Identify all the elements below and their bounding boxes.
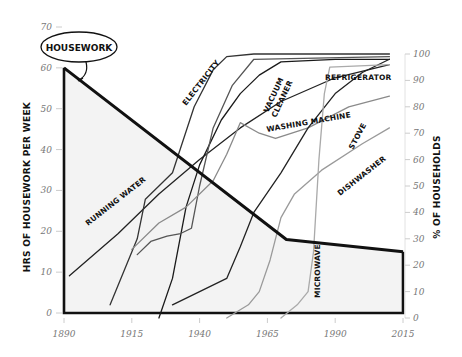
right-tick-label: 100 bbox=[413, 49, 430, 59]
right-tick-label: 80 bbox=[413, 102, 425, 112]
right-tick-label: 20 bbox=[412, 260, 425, 270]
callout-pointer bbox=[79, 62, 87, 80]
left-axis-ticks: 010203040506070 bbox=[40, 22, 62, 318]
label-microwave: MICROWAVE bbox=[313, 244, 322, 298]
left-tick-label: 20 bbox=[40, 226, 53, 236]
left-tick-label: 70 bbox=[41, 22, 53, 32]
x-tick-label: 1940 bbox=[188, 329, 211, 339]
left-tick-label: 0 bbox=[46, 308, 52, 318]
housework-area bbox=[64, 68, 403, 313]
right-tick-label: 60 bbox=[413, 155, 425, 165]
x-tick-label: 1915 bbox=[120, 329, 143, 339]
right-tick-label: 40 bbox=[412, 207, 425, 217]
right-tick-label: 50 bbox=[413, 181, 425, 191]
right-tick-label: 30 bbox=[413, 234, 425, 244]
housework-callout: HOUSEWORK bbox=[41, 32, 117, 81]
x-axis-ticks: 189019151940196519902015 bbox=[53, 318, 415, 339]
right-tick-label: 90 bbox=[413, 75, 425, 85]
housework-label: HOUSEWORK bbox=[46, 43, 114, 53]
right-tick-label: 0 bbox=[413, 313, 419, 323]
left-tick-label: 60 bbox=[41, 63, 53, 73]
y-axis-right-title: % OF HOUSEHOLDS bbox=[432, 135, 442, 239]
left-tick-label: 40 bbox=[40, 145, 53, 155]
left-tick-label: 30 bbox=[41, 185, 53, 195]
household-technology-chart: 010203040506070 0102030405060708090100 1… bbox=[0, 0, 462, 357]
x-tick-label: 1965 bbox=[256, 329, 279, 339]
x-tick-label: 2015 bbox=[391, 329, 415, 339]
left-tick-label: 10 bbox=[41, 267, 53, 277]
right-tick-label: 70 bbox=[413, 128, 425, 138]
label-dishwasher: DISHWASHER bbox=[336, 154, 388, 197]
right-tick-label: 10 bbox=[413, 287, 425, 297]
label-refrigerator: REFRIGERATOR bbox=[325, 73, 392, 82]
right-axis-ticks: 0102030405060708090100 bbox=[405, 49, 430, 323]
left-tick-label: 50 bbox=[41, 104, 53, 114]
label-electricity: ELECTRICITY bbox=[180, 58, 221, 107]
y-axis-left-title: HRS OF HOUSEWORK PER WEEK bbox=[22, 101, 32, 272]
x-tick-label: 1890 bbox=[53, 329, 76, 339]
x-tick-label: 1990 bbox=[324, 329, 347, 339]
